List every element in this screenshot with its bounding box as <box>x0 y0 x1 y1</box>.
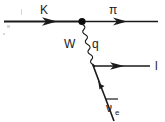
label-antineutrino-nu: ν <box>106 101 112 115</box>
interaction-vertex-dot <box>78 18 85 25</box>
feynman-diagram-canvas: K π W q l ν e <box>0 0 165 122</box>
label-lepton: l <box>155 59 158 73</box>
label-quark: q <box>92 37 99 51</box>
feynman-diagram-svg: K π W q l ν e <box>0 0 165 122</box>
label-pion: π <box>109 3 117 17</box>
label-w-boson: W <box>64 37 76 51</box>
label-kaon: K <box>40 3 48 17</box>
label-antineutrino-subscript: e <box>115 108 120 117</box>
